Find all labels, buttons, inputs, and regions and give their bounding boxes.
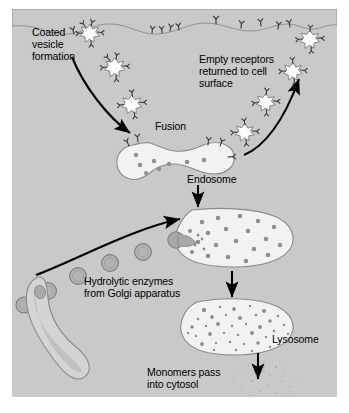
coated-vesicle bbox=[117, 90, 146, 119]
enzyme-vesicle bbox=[135, 244, 152, 261]
diagram-panel: Coated vesicle formation Empty receptors… bbox=[12, 9, 337, 397]
lysosome bbox=[181, 299, 293, 355]
golgi-apparatus bbox=[26, 277, 89, 379]
label-empty-receptors: Empty receptors returned to cell surface bbox=[199, 53, 274, 90]
recycling-vesicle bbox=[231, 118, 259, 146]
enzyme-vesicle bbox=[102, 255, 119, 272]
label-hydrolytic-enzymes: Hydrolytic enzymes from Golgi apparatus bbox=[84, 275, 180, 299]
label-monomers: Monomers pass into cytosol bbox=[147, 366, 220, 390]
label-coated-vesicle-formation: Coated vesicle formation bbox=[32, 26, 75, 63]
coated-vesicle bbox=[100, 53, 129, 82]
label-endosome: Endosome bbox=[187, 173, 236, 185]
endolysosome bbox=[168, 208, 293, 267]
label-fusion: Fusion bbox=[155, 120, 186, 132]
recycling-vesicle bbox=[279, 57, 307, 85]
recycling-arrow bbox=[244, 79, 299, 155]
monomer-cloud bbox=[233, 360, 296, 397]
recycling-vesicle bbox=[296, 25, 325, 53]
recycling-vesicle bbox=[252, 88, 280, 116]
coated-vesicle-group bbox=[76, 19, 147, 119]
label-lysosome: Lysosome bbox=[272, 333, 319, 345]
endocytosis-diagram: Coated vesicle formation Empty receptors… bbox=[0, 0, 349, 413]
